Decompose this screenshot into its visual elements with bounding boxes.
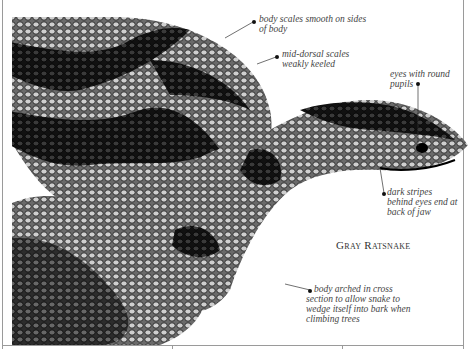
annotation-dot <box>275 55 279 59</box>
annotation-body-arched: body arched in cross section to allow sn… <box>306 284 416 324</box>
annotation-body-scales: body scales smooth on sides of body <box>259 14 369 34</box>
annotation-dot <box>382 192 386 196</box>
annotation-dot <box>252 20 256 24</box>
species-title: Gray Ratsnake <box>336 239 411 251</box>
annotation-eyes: eyes with round pupils <box>390 69 465 89</box>
annotation-stripes: dark stripes behind eyes end at back of … <box>387 187 459 217</box>
annotation-mid-dorsal: mid-dorsal scales weakly keeled <box>282 49 377 69</box>
